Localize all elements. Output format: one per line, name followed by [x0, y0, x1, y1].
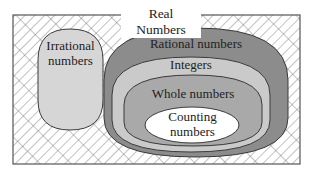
- integers-label: Integers: [112, 57, 270, 72]
- irrational-label: Irrational numbers: [38, 38, 103, 68]
- counting-label-line1: Counting: [145, 109, 240, 124]
- irrational-label-line2: numbers: [38, 53, 103, 68]
- irrational-label-line1: Irrational: [38, 38, 103, 53]
- counting-label-line2: numbers: [145, 124, 240, 139]
- whole-numbers-label: Whole numbers: [124, 86, 262, 101]
- real-numbers-title: Real Numbers: [121, 6, 201, 38]
- rational-label: Rational numbers: [104, 36, 288, 51]
- counting-label: Counting numbers: [145, 109, 240, 139]
